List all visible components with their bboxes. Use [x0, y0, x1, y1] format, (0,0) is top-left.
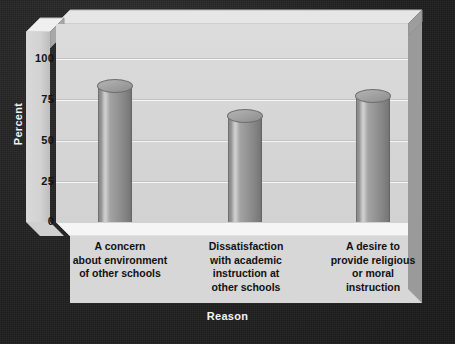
bar-1-body — [228, 116, 262, 222]
floor-top-face — [56, 222, 422, 236]
y-tick-label-0: 0 — [20, 215, 54, 227]
bar-series-0[interactable] — [98, 79, 132, 222]
x-category-label-0: A concern about environment of other sch… — [50, 240, 190, 281]
bar-1-top-ellipse — [227, 109, 263, 123]
bar-series-1[interactable] — [228, 109, 262, 222]
bar-0-body — [98, 86, 132, 222]
y-axis-title: Percent — [12, 94, 24, 154]
y-tick-label-100: 100 — [20, 52, 54, 64]
y-tick-label-75: 75 — [20, 93, 54, 105]
y-tick-label-25: 25 — [20, 175, 54, 187]
y-tick-label-50: 50 — [20, 134, 54, 146]
x-category-label-1: Dissatisfaction with academic instructio… — [180, 240, 312, 294]
gridline-100 — [56, 58, 408, 59]
x-category-label-2: A desire to provide religious or moral i… — [308, 240, 438, 294]
bar-series-2[interactable] — [356, 89, 390, 222]
x-axis-title: Reason — [0, 310, 455, 322]
bar-2-body — [356, 96, 390, 222]
wall-top-face — [56, 10, 422, 24]
bar-chart-3d: 100 75 50 25 0 Percent A concern about e… — [0, 0, 455, 344]
